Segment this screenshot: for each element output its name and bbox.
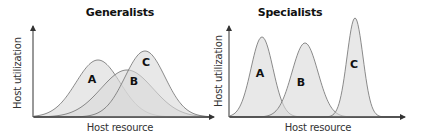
- generalists-curves: ABC: [34, 51, 212, 117]
- diagram-canvas: ABC ABC: [0, 0, 421, 140]
- curve-label-c: C: [142, 56, 150, 69]
- specialists-curves: ABC: [230, 18, 400, 117]
- curve-label-a: A: [88, 73, 97, 86]
- curve-label-c: C: [350, 58, 358, 71]
- curve-label-a: A: [256, 67, 265, 80]
- curve-label-b: B: [297, 76, 305, 89]
- curve-label-b: B: [130, 75, 138, 88]
